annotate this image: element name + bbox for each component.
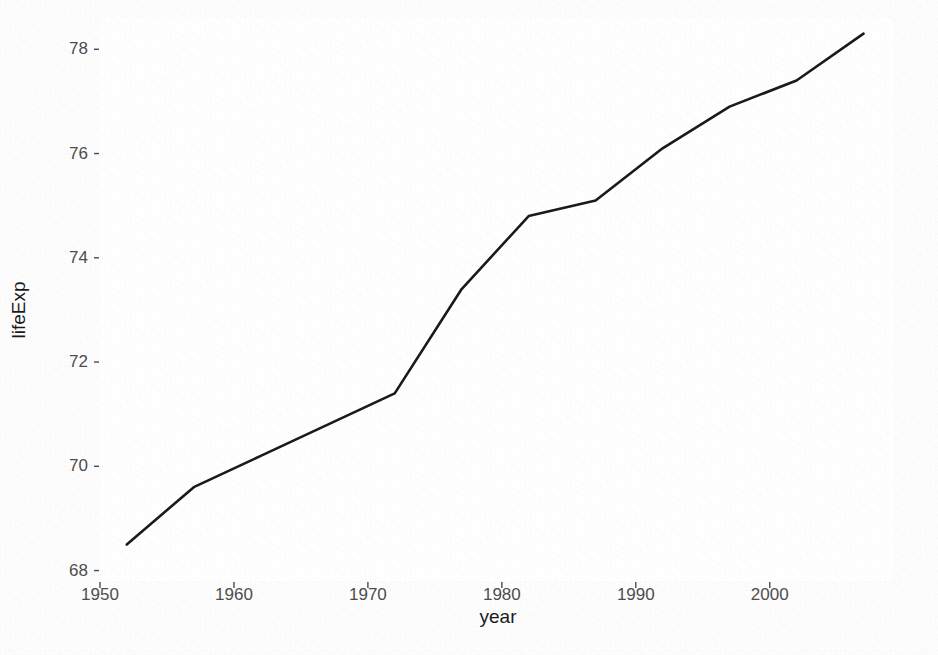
x-tick-label: 1980 xyxy=(483,585,521,605)
x-tick-label: 1970 xyxy=(349,585,387,605)
y-tick-label: 74 xyxy=(48,248,88,268)
x-axis-title: year xyxy=(480,606,517,628)
y-axis-tick-labels: 687072747678 xyxy=(48,0,88,655)
y-tick-label: 78 xyxy=(48,39,88,59)
y-tick-label: 72 xyxy=(48,352,88,372)
y-tick-label: 68 xyxy=(48,561,88,581)
x-tick-label: 2000 xyxy=(751,585,789,605)
chart-figure: 687072747678 195019601970198019902000 li… xyxy=(0,0,938,655)
y-tick-label: 70 xyxy=(48,456,88,476)
axis-tick-marks xyxy=(94,49,770,588)
x-tick-label: 1990 xyxy=(617,585,655,605)
y-tick-label: 76 xyxy=(48,144,88,164)
life-expectancy-line xyxy=(127,34,864,545)
x-tick-label: 1950 xyxy=(81,585,119,605)
x-tick-label: 1960 xyxy=(215,585,253,605)
y-axis-title: lifeExp xyxy=(8,281,30,338)
plot-canvas xyxy=(0,0,938,655)
